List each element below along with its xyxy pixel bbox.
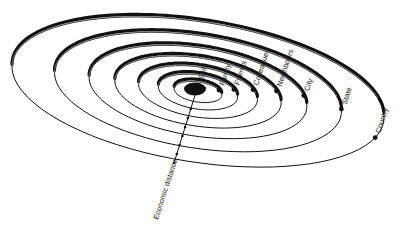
ring-dot-colleagues (251, 87, 256, 92)
ring-label-state: State (340, 86, 354, 105)
axis-tick-dot (175, 153, 178, 156)
axis-tick-dot (178, 144, 181, 147)
axis-label: Economic distance (151, 158, 179, 221)
axis-tick-dot (184, 126, 187, 129)
ring-label-city: City (302, 77, 315, 92)
economic-distance-diagram: Economic distanceSelfFamilyFriendsCollea… (0, 0, 405, 229)
axis-tick-dot (181, 135, 184, 138)
ring-dot-state (339, 107, 344, 112)
ring-dot-country (373, 135, 378, 140)
ring-dot-family (217, 88, 222, 93)
ring-label-country: Country (374, 106, 391, 134)
ring-dot-friends (232, 87, 237, 92)
ring-dot-neighbours (274, 89, 279, 94)
axis-tick-dot (189, 108, 192, 111)
ring-dot-city (301, 93, 306, 98)
axis-tick-dot (187, 117, 190, 120)
self-node (184, 83, 206, 96)
